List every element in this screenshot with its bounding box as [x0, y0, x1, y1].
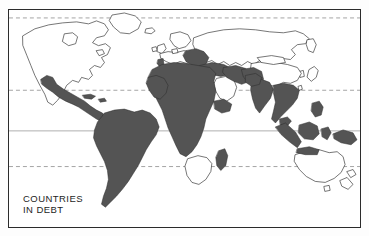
soviet-union-shape: [193, 29, 309, 66]
borneo-shape: [298, 122, 319, 140]
scandinavia-shape: [170, 32, 191, 49]
kamchatka-shape: [306, 39, 316, 53]
map-frame: COUNTRIES IN DEBT: [8, 9, 361, 228]
papua-new-guinea-shape: [333, 130, 357, 145]
southeast-asia-shape: [272, 83, 300, 123]
taiwan-shape: [298, 85, 302, 90]
south-america-shape: [94, 109, 160, 207]
world-map-svg: [9, 10, 360, 227]
horn-of-africa-shape: [214, 99, 232, 113]
sumatra-shape: [275, 123, 301, 148]
new-zealand-south-shape: [340, 177, 353, 189]
new-zealand-north-shape: [347, 170, 356, 178]
tasmania-shape: [324, 185, 330, 191]
cuba-shape: [83, 94, 96, 99]
japan-shape: [307, 66, 318, 81]
southern-africa-shape: [185, 156, 212, 185]
madagascar-shape: [216, 149, 228, 171]
world-debt-map-figure: COUNTRIES IN DEBT: [0, 0, 369, 236]
ireland-shape: [152, 47, 157, 52]
sulawesi-shape: [321, 127, 331, 140]
philippines-shape: [311, 101, 323, 117]
java-shape: [296, 147, 319, 155]
denmark-shape: [172, 49, 178, 54]
iceland-shape: [145, 28, 155, 34]
british-isles-shape: [157, 44, 166, 54]
hispaniola-shape: [98, 98, 106, 102]
greenland-shape: [109, 13, 141, 34]
australia-shape: [294, 150, 345, 183]
